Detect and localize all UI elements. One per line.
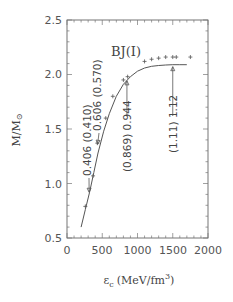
y-tick-label: 2.5	[45, 14, 63, 27]
x-tick-label: 2000	[194, 244, 222, 257]
chart-title: BJ(I)	[111, 44, 141, 59]
x-tick-label: 1000	[124, 244, 152, 257]
y-axis-label-subscript: ⊙	[15, 114, 24, 121]
x-tick-labels: 0 500 1000 1500 2000	[64, 244, 223, 257]
annotation-label: 0.606 (0.570)	[91, 59, 103, 131]
mass-energy-density-chart: 0.5 1.0 1.5 2.0 2.5 0 500 1000 1500 2000…	[0, 0, 233, 302]
x-tick-label: 0	[64, 244, 71, 257]
y-axis-label: M/M⊙	[10, 114, 24, 147]
x-axis-label-close: )	[170, 274, 174, 287]
x-tick-label: 500	[92, 244, 113, 257]
y-axis-label-main: M/M	[10, 120, 23, 146]
y-tick-label: 2.0	[45, 68, 63, 81]
x-axis-label: εc(MeV/fm3)	[104, 272, 175, 289]
annotation-label: (0.869) 0.944	[121, 100, 133, 172]
y-tick-labels: 0.5 1.0 1.5 2.0 2.5	[45, 14, 63, 245]
annotation-label: (1.11) 1.12	[167, 95, 179, 153]
x-axis-label-units: (MeV/fm	[117, 274, 166, 287]
x-tick-label: 1500	[159, 244, 187, 257]
x-axis-label-subscript: c	[109, 280, 114, 289]
y-tick-label: 0.5	[45, 232, 63, 245]
y-tick-label: 1.0	[45, 178, 63, 191]
y-tick-label: 1.5	[45, 123, 63, 136]
